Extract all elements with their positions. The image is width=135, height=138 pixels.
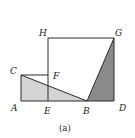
label-b: B <box>82 106 90 116</box>
figure-caption: (a) <box>59 123 71 133</box>
label-h: H <box>38 28 47 38</box>
geometry-figure: H G C F A E B D (a) <box>0 0 135 138</box>
label-e: E <box>43 106 51 116</box>
label-a: A <box>10 103 18 113</box>
label-d: D <box>118 103 126 113</box>
label-g: G <box>115 28 122 38</box>
label-c: C <box>10 66 17 76</box>
label-f: F <box>52 71 60 81</box>
